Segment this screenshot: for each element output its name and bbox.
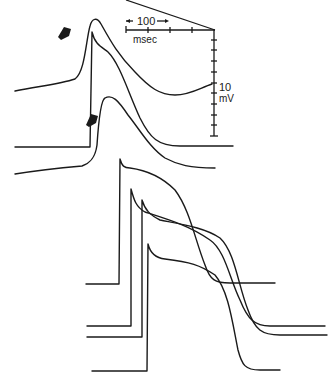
voltage-scale-bar [210, 30, 218, 136]
voltage-scale-value: 10 [219, 82, 231, 92]
voltage-scale-unit: mV [219, 94, 234, 104]
slow-response-trace-1 [15, 19, 212, 95]
traces-canvas [0, 0, 333, 384]
fast-action-potential-1 [86, 159, 275, 284]
fast-action-potential-4 [92, 244, 280, 371]
action-potential-figure: 100 msec 10 mV [0, 0, 333, 384]
arrow-1-icon [58, 27, 71, 40]
arrow-2-icon [86, 114, 98, 127]
slow-response-trace-3 [15, 97, 215, 174]
slow-response-trace-2 [15, 32, 233, 147]
time-scale-unit: msec [133, 35, 157, 45]
fast-action-potential-2 [87, 189, 325, 326]
time-scale-value: 100 [137, 16, 155, 26]
